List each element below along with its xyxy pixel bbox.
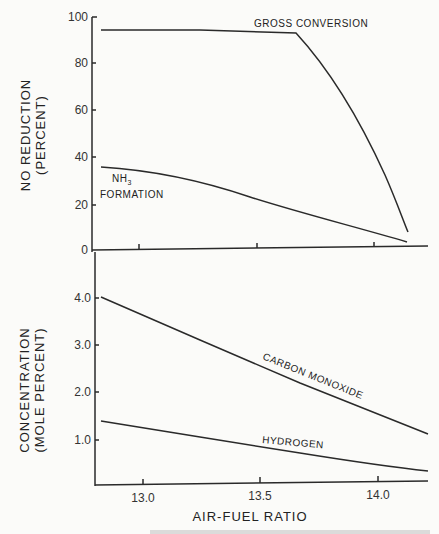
- top-x-axis: [92, 246, 428, 250]
- top-y-axis-title: NO REDUCTION (PERCENT): [18, 79, 48, 191]
- gross-conversion-label: GROSS CONVERSION: [254, 18, 368, 29]
- top-y-tick-label: 0: [81, 243, 88, 257]
- cut-off-caption-fragment: [150, 530, 430, 534]
- bottom-y-tick-label: 2.0: [74, 385, 91, 399]
- x-tick-label: 14.0: [366, 488, 390, 502]
- top-y-title-line2: (PERCENT): [33, 95, 48, 175]
- bottom-y-axis-title: CONCENTRATION (MOLE PERCENT): [17, 327, 47, 452]
- carbon-monoxide-label: CARBON MONOXIDE: [261, 351, 365, 401]
- nh3-text: NH3: [112, 173, 132, 186]
- top-y-title-line1: NO REDUCTION: [18, 79, 33, 191]
- bottom-y-tick-label: 1.0: [74, 433, 91, 447]
- bottom-y-title-line2: (MOLE PERCENT): [32, 327, 47, 452]
- nh3-label: NH3: [112, 173, 132, 186]
- top-y-tick-label: 100: [68, 10, 88, 24]
- hydrogen-curve: [101, 421, 428, 471]
- top-y-tick-label: 60: [75, 103, 89, 117]
- gross-conversion-curve: [101, 30, 408, 232]
- carbon-monoxide-curve: [101, 297, 428, 434]
- figure: 100 80 60 40 20 0 NO REDUCTION (PERCENT)…: [0, 0, 439, 534]
- top-y-tick-label: 20: [75, 198, 89, 212]
- bottom-y-tick-label: 3.0: [74, 338, 91, 352]
- nh3-formation-curve: [101, 167, 407, 242]
- x-tick-label: 13.0: [131, 491, 155, 505]
- top-panel: 100 80 60 40 20 0 NO REDUCTION (PERCENT)…: [18, 10, 428, 257]
- formation-label: FORMATION: [100, 189, 164, 200]
- x-axis-title: AIR-FUEL RATIO: [192, 509, 307, 524]
- x-tick-label: 13.5: [248, 489, 272, 503]
- bottom-panel: 4.0 3.0 2.0 1.0 13.0 13.5 14.0 AIR-FUEL …: [17, 252, 428, 524]
- top-y-tick-label: 40: [75, 150, 89, 164]
- bottom-y-title-line1: CONCENTRATION: [17, 327, 32, 452]
- top-y-tick-label: 80: [75, 56, 89, 70]
- bottom-y-tick-label: 4.0: [74, 291, 91, 305]
